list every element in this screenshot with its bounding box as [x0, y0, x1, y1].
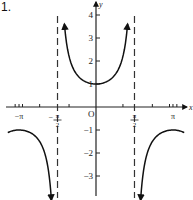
svg-text:π: π: [171, 112, 175, 121]
y-tick-label: 4: [89, 10, 94, 20]
svg-text:2: 2: [56, 121, 60, 129]
axes: [6, 2, 187, 196]
y-tick-label: 2: [89, 56, 94, 66]
svg-text:−π: −π: [15, 112, 24, 121]
y-tick-label: −3: [83, 171, 93, 181]
svg-text:−: −: [49, 113, 54, 122]
sec-graph: xy−π−π2Oπ2π4321−1−2−3: [0, 0, 193, 200]
x-axis-label: x: [188, 103, 193, 112]
svg-text:π: π: [56, 112, 60, 120]
y-tick-label: 3: [89, 33, 94, 43]
y-axis-label: y: [98, 0, 103, 9]
tick-labels: xy−π−π2Oπ2π4321−1−2−3: [15, 0, 193, 181]
y-tick-label: −2: [83, 148, 93, 158]
sec-curve: [8, 130, 52, 200]
svg-text:2: 2: [133, 121, 137, 129]
svg-text:O: O: [88, 109, 95, 119]
sec-curve: [141, 130, 185, 200]
y-tick-label: −1: [83, 125, 93, 135]
svg-text:π: π: [133, 112, 137, 120]
y-tick-label: 1: [89, 79, 94, 89]
